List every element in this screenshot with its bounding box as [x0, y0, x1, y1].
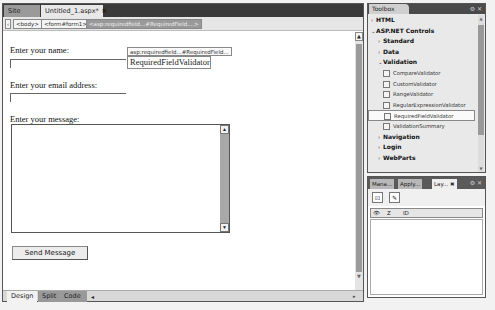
tag-selector-bar: ‹ <body> <form#form1> <asp:requiredfield… [3, 17, 363, 31]
category-label: Navigation [383, 133, 420, 140]
tab-layers[interactable]: Lay... ✖ [432, 179, 457, 189]
toolbox-panel: Toolbox ⚙ ✕ ›HTML ⌄ASP.NET Controls ›Sta… [367, 3, 486, 173]
scroll-up-icon[interactable]: ▲ [220, 125, 229, 134]
scroll-thumb[interactable] [356, 44, 362, 272]
tab-untitled-1-aspx[interactable]: Untitled_1.aspx*✖ [41, 5, 103, 17]
email-label: Enter your email address: [10, 80, 97, 90]
close-tab-icon[interactable]: ✖ [102, 7, 107, 14]
document-tab-bar: Site View Untitled_1.aspx*✖ [3, 4, 363, 17]
toolbox-header: Toolbox ⚙ ✕ [368, 4, 485, 14]
scroll-left-icon[interactable]: ◂ [91, 291, 94, 302]
view-mode-bar: Design Split Code ◂ ▸ [3, 290, 363, 301]
tag-requiredfieldvalidator[interactable]: <asp:requiredfield...#RequiredField....> [86, 19, 202, 29]
tab-split[interactable]: Split [38, 291, 60, 302]
tool-label: RegularExpressionValidator [393, 102, 466, 108]
tab-apply-styles[interactable]: Apply... [398, 179, 422, 189]
panel-tab-bar: Mana... Apply... Lay... ✖ ⚙ ✕ [368, 177, 485, 189]
scroll-down-icon[interactable]: ▼ [478, 165, 484, 172]
toolbox-category-validation[interactable]: ⌄Validation [368, 57, 478, 68]
validator-icon [384, 113, 391, 120]
validator-icon [383, 102, 390, 109]
scroll-thumb[interactable] [478, 25, 484, 135]
validator-icon [383, 70, 390, 77]
column-id[interactable]: ID [403, 209, 409, 217]
toolbox-item-comparevalidator[interactable]: CompareValidator [368, 68, 478, 79]
scroll-right-icon[interactable]: ▸ [353, 291, 356, 302]
message-label: Enter your message: [10, 114, 79, 124]
layers-column-header: 👁 Z ID [370, 208, 483, 218]
tag-body[interactable]: <body> [13, 19, 42, 29]
textarea-scrollbar[interactable]: ▲ ▼ [220, 125, 229, 232]
validator-tag-label: asp:requiredfield...#RequiredField... [127, 47, 232, 56]
toolbox-item-requiredfieldvalidator[interactable]: RequiredFieldValidator [368, 110, 475, 121]
layers-list[interactable] [370, 219, 483, 295]
toolbox-title[interactable]: Toolbox [369, 4, 409, 14]
tab-design[interactable]: Design [7, 291, 37, 302]
tool-label: ValidationSummary [393, 123, 445, 129]
panel-options-icon[interactable]: ⚙ ✕ [470, 4, 482, 14]
name-input[interactable] [10, 59, 70, 68]
validator-icon [383, 81, 390, 88]
document-window: Site View Untitled_1.aspx*✖ ‹ <body> <fo… [2, 3, 364, 302]
scroll-up-icon[interactable]: ▲ [355, 32, 363, 41]
category-label: WebParts [383, 154, 415, 161]
send-message-button[interactable]: Send Message [12, 246, 88, 260]
tool-label: CompareValidator [393, 70, 441, 76]
chevron-right-icon: › [378, 132, 380, 143]
toolbox-category-html[interactable]: ›HTML [368, 15, 478, 26]
category-label: Data [383, 48, 399, 55]
tool-label: CustomValidator [393, 81, 437, 87]
visibility-eye-icon[interactable]: 👁 [373, 209, 380, 217]
panel-options-icon[interactable]: ⚙ ✕ [470, 178, 482, 188]
toolbox-category-login[interactable]: ›Login [368, 142, 478, 153]
email-input[interactable] [10, 93, 70, 102]
tag-nav-arrow-icon[interactable]: ‹ [5, 19, 11, 29]
required-field-validator[interactable]: RequiredFieldValidator [127, 56, 211, 69]
edit-layer-icon[interactable]: ✎ [389, 192, 400, 203]
toolbox-list: ›HTML ⌄ASP.NET Controls ›Standard ›Data … [368, 15, 478, 163]
toolbox-item-customvalidator[interactable]: CustomValidator [368, 79, 478, 90]
category-label: ASP.NET Controls [376, 27, 434, 34]
toolbox-item-regularexpressionvalidator[interactable]: RegularExpressionValidator [368, 100, 478, 111]
chevron-down-icon: ⌄ [378, 57, 383, 68]
scroll-up-icon[interactable]: ▲ [478, 15, 484, 22]
name-label: Enter your name: [10, 45, 69, 55]
tag-form[interactable]: <form#form1> [41, 19, 90, 29]
tab-label: Untitled_1.aspx* [45, 7, 99, 15]
layers-toolbar: ⊡ ✎ [368, 189, 485, 206]
close-tab-icon[interactable]: ✖ [450, 181, 455, 187]
message-textarea[interactable]: ▲ ▼ [11, 124, 230, 233]
design-surface[interactable]: Enter your name: asp:requiredfield...#Re… [3, 32, 355, 291]
summary-icon [383, 123, 390, 130]
toolbox-category-navigation[interactable]: ›Navigation [368, 132, 478, 143]
chevron-right-icon: › [378, 36, 380, 47]
toolbox-category-standard[interactable]: ›Standard [368, 36, 478, 47]
tab-label: Lay... [434, 181, 448, 187]
category-label: Standard [383, 37, 414, 44]
toolbox-category-data[interactable]: ›Data [368, 47, 478, 58]
tab-manage-styles[interactable]: Mana... [370, 179, 394, 189]
design-vertical-scrollbar[interactable]: ▲ ▼ [355, 32, 363, 291]
toolbox-category-webparts[interactable]: ›WebParts [368, 153, 478, 164]
column-z[interactable]: Z [387, 209, 391, 217]
chevron-right-icon: › [378, 153, 380, 164]
toolbox-category-aspnet-controls[interactable]: ⌄ASP.NET Controls [368, 26, 478, 37]
toolbox-item-validationsummary[interactable]: ValidationSummary [368, 121, 478, 132]
tab-site-view[interactable]: Site View [4, 5, 40, 17]
tab-code[interactable]: Code [60, 291, 87, 302]
category-label: HTML [376, 16, 395, 23]
tool-label: RangeValidator [393, 91, 433, 97]
chevron-right-icon: › [378, 142, 380, 153]
scroll-down-icon[interactable]: ▼ [220, 223, 229, 232]
chevron-right-icon: › [371, 15, 373, 26]
toolbox-item-rangevalidator[interactable]: RangeValidator [368, 89, 478, 100]
category-label: Validation [383, 58, 417, 65]
chevron-right-icon: › [378, 47, 380, 58]
chevron-down-icon: ⌄ [371, 26, 376, 37]
validator-icon [383, 91, 390, 98]
scroll-down-icon[interactable]: ▼ [355, 273, 363, 281]
insert-layer-icon[interactable]: ⊡ [372, 192, 383, 203]
tool-label: RequiredFieldValidator [394, 113, 453, 119]
category-label: Login [383, 143, 402, 150]
toolbox-scrollbar[interactable]: ▲ ▼ [478, 15, 484, 172]
